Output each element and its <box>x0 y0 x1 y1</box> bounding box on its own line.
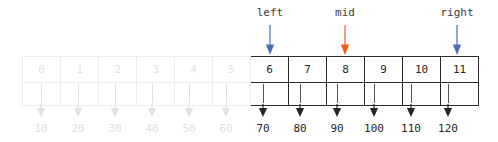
pointer-arrow-right-icon <box>452 25 463 56</box>
value-arrow-2-icon <box>110 104 121 118</box>
value-arrow-7-icon <box>295 104 306 118</box>
array-value-2: 30 <box>108 122 121 135</box>
array-slot-7[interactable] <box>289 83 327 106</box>
array-value-4: 50 <box>182 122 195 135</box>
array-slot-11[interactable] <box>441 83 479 106</box>
binary-search-diagram: left mid right 0 1 2 3 4 5 6 7 8 <box>0 0 498 142</box>
array-cell-index-2[interactable]: 2 <box>99 57 137 83</box>
table-row-indices: 0 1 2 3 4 5 6 7 8 9 10 11 <box>23 57 479 83</box>
array-value-0: 10 <box>34 122 47 135</box>
value-arrow-10-icon <box>406 104 417 118</box>
value-arrow-0-icon <box>36 104 47 118</box>
array-stem-10 <box>411 84 412 103</box>
array-value-5: 60 <box>219 122 232 135</box>
value-arrow-3-icon <box>147 104 158 118</box>
array-slot-9[interactable] <box>365 83 403 106</box>
array-value-11: 120 <box>438 122 458 135</box>
array-stem-0 <box>41 84 42 103</box>
array-slot-1[interactable] <box>61 83 99 106</box>
value-arrow-4-icon <box>184 104 195 118</box>
array-stem-4 <box>189 84 190 103</box>
array-cell-index-5[interactable]: 5 <box>213 57 251 83</box>
array-stem-7 <box>300 84 301 103</box>
array-slot-8[interactable] <box>327 83 365 106</box>
value-arrow-8-icon <box>332 104 343 118</box>
value-arrow-6-icon <box>258 104 269 118</box>
array-cell-index-4[interactable]: 4 <box>175 57 213 83</box>
array-cell-index-9[interactable]: 9 <box>365 57 403 83</box>
array-cell-index-11[interactable]: 11 <box>441 57 479 83</box>
array-stem-6 <box>263 84 264 103</box>
array-slot-6[interactable] <box>251 83 289 106</box>
pointer-label-mid: mid <box>335 6 355 19</box>
pointer-label-left: left <box>257 6 284 19</box>
array-value-10: 110 <box>401 122 421 135</box>
array-value-8: 90 <box>330 122 343 135</box>
array-stem-9 <box>374 84 375 103</box>
value-arrow-5-icon <box>221 104 232 118</box>
array-cell-index-3[interactable]: 3 <box>137 57 175 83</box>
array-cell-index-7[interactable]: 7 <box>289 57 327 83</box>
array-value-3: 40 <box>145 122 158 135</box>
array-stem-8 <box>337 84 338 103</box>
pointer-arrow-left-icon <box>265 25 276 56</box>
array-stem-5 <box>226 84 227 103</box>
array-slot-4[interactable] <box>175 83 213 106</box>
array-slot-3[interactable] <box>137 83 175 106</box>
array-cell-index-0[interactable]: 0 <box>23 57 61 83</box>
array-cell-index-6[interactable]: 6 <box>251 57 289 83</box>
array-value-9: 100 <box>364 122 384 135</box>
array-value-7: 80 <box>293 122 306 135</box>
array-value-6: 70 <box>256 122 269 135</box>
array-stem-2 <box>115 84 116 103</box>
array-cell-index-1[interactable]: 1 <box>61 57 99 83</box>
array-value-1: 20 <box>71 122 84 135</box>
value-arrow-9-icon <box>369 104 380 118</box>
array-cell-index-8[interactable]: 8 <box>327 57 365 83</box>
value-arrow-1-icon <box>73 104 84 118</box>
array-slot-2[interactable] <box>99 83 137 106</box>
array-stem-1 <box>78 84 79 103</box>
array-cell-index-10[interactable]: 10 <box>403 57 441 83</box>
value-arrow-11-icon <box>443 104 454 118</box>
array-stem-3 <box>152 84 153 103</box>
array-stem-11 <box>448 84 449 103</box>
pointer-arrow-mid-icon <box>340 25 351 56</box>
array-slot-10[interactable] <box>403 83 441 106</box>
array-slot-5[interactable] <box>213 83 251 106</box>
pointer-label-right: right <box>440 6 473 19</box>
